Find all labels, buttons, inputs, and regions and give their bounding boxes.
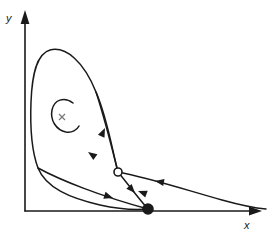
axes-group	[21, 10, 262, 215]
saddle-point-marker	[114, 168, 122, 176]
direction-arrows-group	[86, 126, 165, 201]
arrow-toward-saddle-lower-icon	[137, 188, 148, 198]
x-axis-label: x	[244, 220, 250, 231]
phase-portrait-canvas	[0, 0, 271, 237]
y-axis-arrow-icon	[21, 10, 30, 24]
stable-node-marker	[143, 204, 153, 214]
phase-portrait-figure: y x	[0, 0, 271, 237]
y-axis-label: y	[6, 13, 12, 24]
trajectories-group	[31, 49, 266, 209]
trajectory-incoming-branch-upper-left	[96, 92, 118, 172]
unstable-spiral-focus-marker	[59, 114, 65, 120]
trajectory-inner-spiral-arc	[52, 99, 79, 132]
trajectory-asymptotic-right-tail	[118, 172, 266, 209]
arrow-down-left-branch-icon	[86, 149, 98, 160]
arrow-toward-node-lower-icon	[103, 192, 114, 202]
